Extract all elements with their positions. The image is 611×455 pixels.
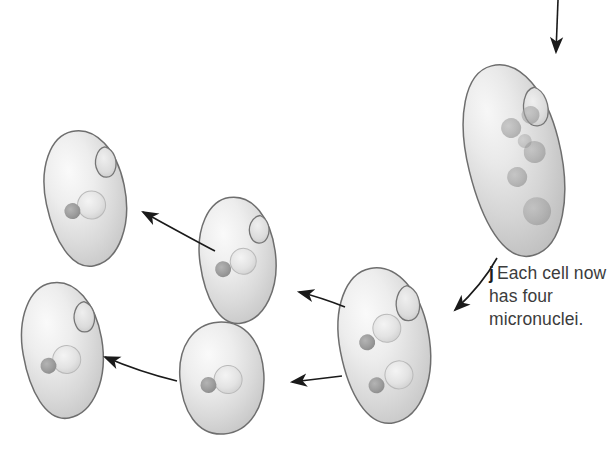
caption-text: Each cell now has four micronuclei. [489,263,606,329]
daughter-cell-lower-left [12,276,114,424]
arrow-dividing-to-lower-middle [292,376,342,382]
daughter-cell-upper-middle [192,192,285,327]
arrow-dividing-to-upper-middle [299,292,345,307]
daughter-cell-lower-middle [176,319,268,437]
arrow-lower-middle-to-lower-left [105,357,177,381]
figure-caption: jEach cell now has four micronuclei. [489,262,607,331]
parent-cell-body [446,55,584,266]
dividing-cell-body [326,260,444,430]
parent-cell-four-micronuclei [446,55,584,266]
figure-canvas: jEach cell now has four micronuclei. [0,0,611,455]
dividing-cell-center [326,260,444,430]
cell-diagram-svg [0,0,611,455]
daughter-cell-upper-left [33,123,140,273]
arrow-into-parent-cell [556,0,558,52]
caption-label: j [489,263,494,283]
